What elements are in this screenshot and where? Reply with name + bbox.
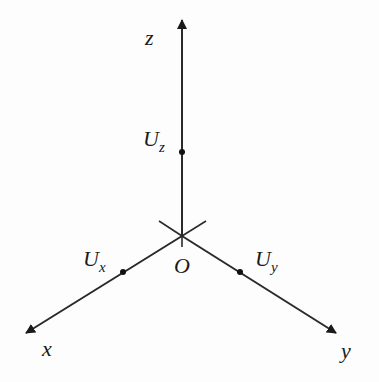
point-uy-dot xyxy=(237,269,243,275)
point-uz-dot xyxy=(179,149,185,155)
point-uz-label: Uz xyxy=(143,128,165,150)
coordinate-diagram: z x y O Uz Ux Uy xyxy=(0,0,379,382)
origin-label: O xyxy=(174,255,190,277)
point-uz-base: U xyxy=(143,126,159,151)
y-axis-label: y xyxy=(341,340,351,362)
point-ux-label: Ux xyxy=(83,248,106,270)
axes-drawing xyxy=(0,0,379,382)
point-ux-base: U xyxy=(83,246,99,271)
z-axis-label: z xyxy=(145,27,154,49)
x-axis-label: x xyxy=(42,338,52,360)
point-ux-dot xyxy=(120,269,126,275)
point-uy-base: U xyxy=(255,246,271,271)
point-uy-sub: y xyxy=(271,259,278,275)
point-ux-sub: x xyxy=(99,259,106,275)
point-uz-sub: z xyxy=(159,139,165,155)
point-uy-label: Uy xyxy=(255,248,278,270)
